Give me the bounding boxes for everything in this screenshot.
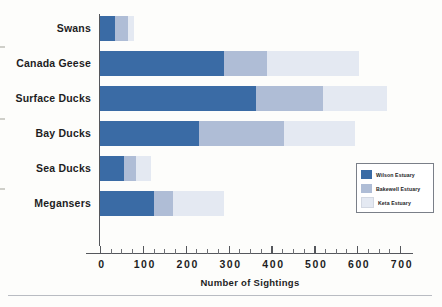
tick-label: 100 — [134, 258, 156, 270]
bar-segment[interactable] — [100, 121, 199, 146]
tick-major — [186, 246, 187, 254]
tick-major — [100, 246, 101, 254]
bar-segment[interactable] — [100, 51, 224, 76]
tick-major — [400, 246, 401, 254]
bar-segment[interactable] — [100, 16, 115, 41]
bar-segment[interactable] — [136, 156, 151, 181]
bar-segment[interactable] — [284, 121, 355, 146]
bar-row[interactable]: Bay Ducks — [100, 121, 355, 146]
tick-major — [314, 246, 315, 254]
legend-swatch-bakewell — [361, 184, 372, 193]
tick-minor — [261, 249, 262, 254]
legend-swatch-wilson — [361, 170, 372, 179]
tick-minor — [196, 249, 197, 254]
tick-minor — [132, 249, 133, 254]
tick-minor — [164, 249, 165, 254]
tick-minor — [111, 249, 112, 254]
legend-label: Wilson Estuary — [376, 172, 415, 178]
tick-label: 0 — [98, 258, 105, 270]
bar-segment[interactable] — [100, 191, 154, 216]
plot-area: SwansCanada GeeseSurface DucksBay DucksS… — [100, 14, 400, 238]
tick-label: 500 — [305, 258, 327, 270]
tick-minor — [207, 249, 208, 254]
tick-minor — [325, 249, 326, 254]
tick-minor — [336, 249, 337, 254]
bar-segment[interactable] — [124, 156, 137, 181]
bar-segment[interactable] — [128, 16, 134, 41]
tick-minor — [304, 249, 305, 254]
tick-label: 700 — [391, 258, 413, 270]
legend-item[interactable]: Keta Estuary — [361, 196, 429, 209]
stacked-bar-chart: SwansCanada GeeseSurface DucksBay DucksS… — [0, 0, 442, 307]
category-label: Bay Ducks — [36, 121, 101, 146]
tick-minor — [175, 249, 176, 254]
tick-major — [229, 246, 230, 254]
category-label: Canada Geese — [16, 51, 100, 76]
x-axis-title: Number of Sightings — [100, 277, 400, 288]
tick-minor — [282, 249, 283, 254]
tick-minor — [293, 249, 294, 254]
tick-label: 600 — [348, 258, 370, 270]
category-label: Sea Ducks — [36, 156, 100, 181]
tick-label: 200 — [177, 258, 199, 270]
bar-segment[interactable] — [323, 86, 387, 111]
bar-segment[interactable] — [173, 191, 224, 216]
tick-label: 400 — [262, 258, 284, 270]
legend-label: Keta Estuary — [378, 200, 411, 206]
tick-minor — [239, 249, 240, 254]
bar-row[interactable]: Surface Ducks — [100, 86, 387, 111]
bar-segment[interactable] — [224, 51, 267, 76]
tick-major — [143, 246, 144, 254]
tick-minor — [154, 249, 155, 254]
category-label: Swans — [57, 16, 100, 41]
bar-segment[interactable] — [154, 191, 173, 216]
tick-minor — [368, 249, 369, 254]
legend-item[interactable]: Bakewell Estuary — [361, 182, 429, 195]
tick-major — [357, 246, 358, 254]
tick-minor — [379, 249, 380, 254]
tick-minor — [250, 249, 251, 254]
bar-segment[interactable] — [199, 121, 285, 146]
bar-segment[interactable] — [100, 86, 256, 111]
tick-minor — [346, 249, 347, 254]
bar-row[interactable]: Megansers — [100, 191, 224, 216]
bar-segment[interactable] — [115, 16, 128, 41]
bar-segment[interactable] — [100, 156, 124, 181]
tick-label: 300 — [219, 258, 241, 270]
bar-row[interactable]: Canada Geese — [100, 51, 359, 76]
category-label: Surface Ducks — [15, 86, 100, 111]
bar-segment[interactable] — [256, 86, 322, 111]
legend-swatch-keta — [361, 197, 374, 208]
chart-legend: Wilson Estuary Bakewell Estuary Keta Est… — [356, 163, 434, 213]
bar-row[interactable]: Sea Ducks — [100, 156, 151, 181]
tick-major — [271, 246, 272, 254]
category-label: Megansers — [34, 191, 100, 216]
tick-minor — [218, 249, 219, 254]
bar-row[interactable]: Swans — [100, 16, 134, 41]
bar-segment[interactable] — [267, 51, 359, 76]
tick-minor — [389, 249, 390, 254]
legend-label: Bakewell Estuary — [376, 186, 420, 192]
figure-bottom-rule — [8, 295, 432, 296]
legend-item[interactable]: Wilson Estuary — [361, 168, 429, 181]
tick-minor — [121, 249, 122, 254]
